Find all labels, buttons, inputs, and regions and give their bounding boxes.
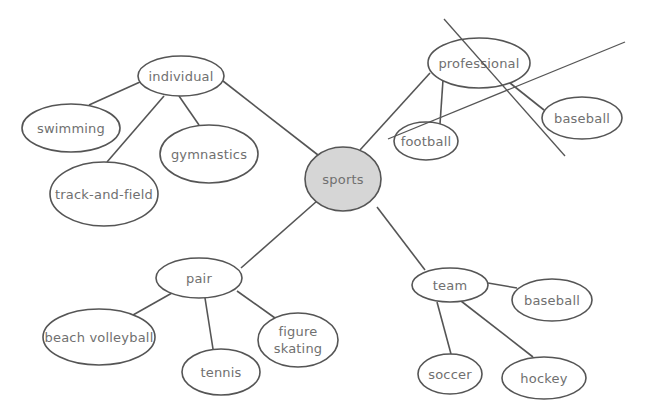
edge-pair-to-tennis [205,298,213,349]
edge-individual-to-swimming [89,82,140,105]
node-baseball-team: baseball [512,279,592,321]
node-figure-skating: figureskating [258,313,338,367]
node-label: team [433,278,468,293]
node-soccer: soccer [418,354,482,394]
edge-team-to-soccer [437,302,451,354]
node-professional: professional [428,38,530,88]
edge-individual-to-gymnastics [179,96,199,125]
node-tennis: tennis [182,349,260,395]
node-label: hockey [520,371,567,386]
node-sports: sports [305,147,381,211]
node-label: figure [279,324,318,339]
edge-team-to-baseball-team [488,283,517,288]
node-baseball-pro: baseball [542,97,622,139]
node-team: team [412,268,488,302]
node-label: gymnastics [171,147,247,162]
node-label: football [401,134,452,149]
node-label: baseball [524,293,580,308]
node-label: pair [186,271,212,286]
node-label: sports [322,172,363,187]
node-pair: pair [156,258,242,298]
node-label: swimming [37,121,105,136]
sports-concept-map: sportsindividualswimmingtrack-and-fieldg… [0,0,648,417]
node-label: track-and-field [55,187,153,202]
node-label: skating [274,341,323,356]
node-swimming: swimming [22,104,120,152]
node-football: football [394,122,458,160]
connector-lines [89,73,544,357]
node-label: baseball [554,111,610,126]
edge-sports-to-team [377,207,425,270]
node-gymnastics: gymnastics [160,125,258,183]
node-ellipse [258,313,338,367]
node-beach-volleyball: beach volleyball [43,309,155,365]
edge-sports-to-pair [241,201,317,268]
edge-pair-to-beach-volleyball [133,293,172,315]
node-label: beach volleyball [45,330,154,345]
node-label: individual [148,69,213,84]
edge-pair-to-figure-skating [237,291,275,318]
node-individual: individual [138,56,224,96]
cross-out-line-1 [444,19,565,156]
node-hockey: hockey [502,357,586,399]
node-label: soccer [428,367,472,382]
node-track-and-field: track-and-field [50,162,158,226]
concept-nodes: sportsindividualswimmingtrack-and-fieldg… [22,38,622,399]
node-label: tennis [200,365,241,380]
